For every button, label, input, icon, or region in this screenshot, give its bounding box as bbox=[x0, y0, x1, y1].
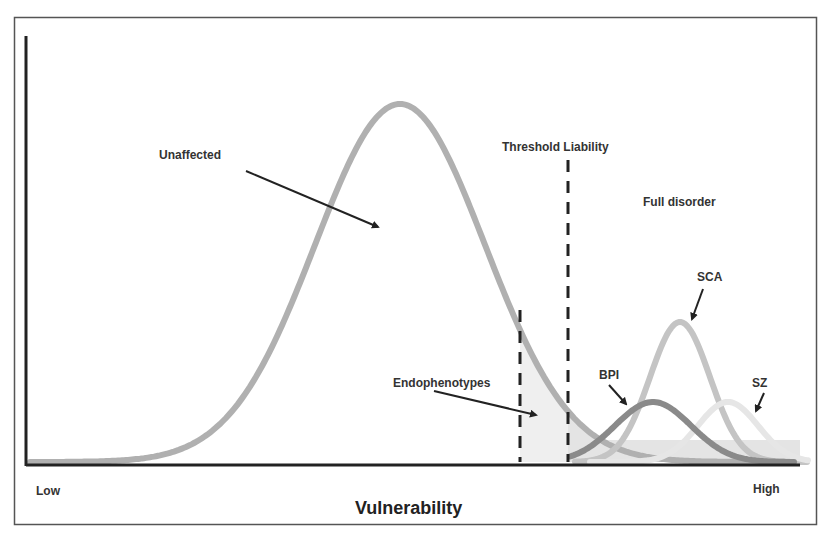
x-axis-low-label: Low bbox=[36, 484, 60, 498]
threshold-liability-label: Threshold Liability bbox=[502, 140, 609, 154]
liability-threshold-diagram: Unaffected Threshold Liability Full diso… bbox=[0, 0, 831, 540]
sca-label: SCA bbox=[697, 270, 722, 284]
bpi-label: BPI bbox=[599, 368, 619, 382]
x-axis-high-label: High bbox=[753, 482, 780, 496]
endophenotypes-label: Endophenotypes bbox=[393, 376, 490, 390]
x-axis-title: Vulnerability bbox=[355, 498, 462, 519]
unaffected-label: Unaffected bbox=[159, 148, 221, 162]
full-disorder-label: Full disorder bbox=[643, 195, 716, 209]
sz-label: SZ bbox=[752, 376, 767, 390]
